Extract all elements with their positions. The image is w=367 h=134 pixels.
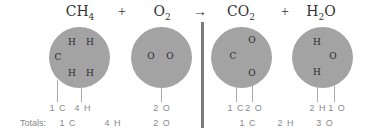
atom-c: C: [230, 51, 237, 61]
tick-line: [252, 86, 253, 102]
total-count: 4 H: [104, 118, 121, 128]
total-count: 2 O: [153, 118, 171, 128]
count-label: 1 C: [227, 103, 244, 113]
atom-h: H: [86, 37, 94, 47]
count-label: 2 H: [309, 103, 326, 113]
plus-sign: +: [281, 4, 289, 20]
atom-h: H: [313, 67, 321, 77]
atom-o: O: [166, 51, 173, 61]
count-label: 2 O: [153, 103, 171, 113]
atom-o: O: [248, 68, 255, 78]
total-count: 1 C: [239, 118, 256, 128]
reaction-divider: [201, 22, 204, 128]
atom-h: H: [313, 37, 321, 47]
molecule-co2: [211, 27, 272, 88]
tick-line: [236, 86, 237, 102]
formula-h2o: H2O: [306, 3, 335, 22]
total-count: 2 H: [277, 118, 294, 128]
reaction-arrow-icon: →: [193, 4, 207, 20]
atom-h: H: [68, 37, 76, 47]
atom-h: H: [86, 68, 94, 78]
tick-line: [317, 86, 318, 102]
total-count: 1 C: [59, 118, 76, 128]
tick-line: [334, 86, 335, 102]
formula-co2: CO2: [227, 3, 255, 22]
molecule-h2o: [292, 27, 353, 88]
formula-o2: O2: [153, 3, 170, 22]
count-label: 2 O: [245, 103, 263, 113]
atom-o: O: [147, 51, 154, 61]
atom-o: O: [329, 51, 336, 61]
atom-c: C: [55, 52, 62, 62]
count-label: 4 H: [74, 103, 91, 113]
plus-sign: +: [118, 4, 126, 20]
tick-line: [81, 88, 82, 102]
tick-line: [57, 80, 58, 102]
atom-h: H: [68, 68, 76, 78]
total-count: 3 O: [316, 118, 334, 128]
count-label: 1 O: [328, 103, 346, 113]
molecule-o2: [131, 27, 192, 88]
count-label: 1 C: [49, 103, 66, 113]
formula-ch4: CH4: [66, 3, 95, 22]
atom-o: O: [248, 35, 255, 45]
totals-label: Totals:: [20, 118, 46, 128]
tick-line: [161, 88, 162, 102]
